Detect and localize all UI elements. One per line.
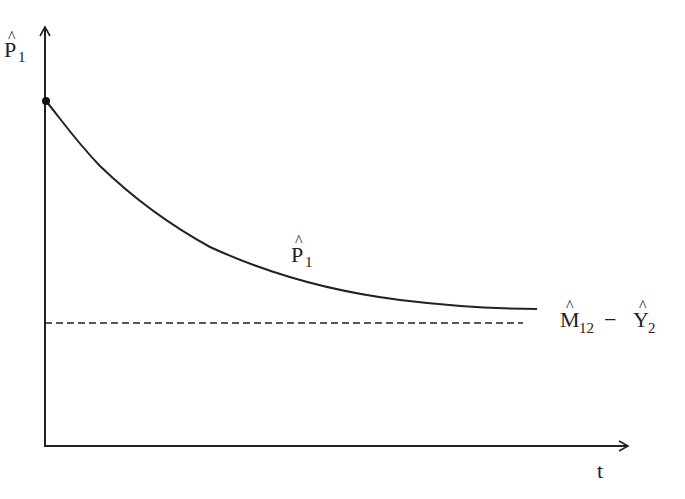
curve-label: ^ P 1 bbox=[291, 232, 313, 270]
asym-m-sub: 12 bbox=[579, 320, 594, 336]
asym-m-main: M bbox=[560, 307, 580, 332]
curve-label-sub: 1 bbox=[305, 254, 313, 270]
asymptote-label: ^ M 12 − ^ Y 2 bbox=[560, 297, 656, 336]
asym-y-sub: 2 bbox=[648, 320, 656, 336]
x-axis-label: t bbox=[597, 458, 603, 483]
chart: ^ P 1 ^ P 1 ^ M 12 − ^ Y 2 t bbox=[0, 0, 685, 499]
decay-curve bbox=[46, 101, 537, 309]
asym-minus: − bbox=[604, 307, 616, 332]
y-axis-label: ^ P 1 bbox=[4, 28, 26, 65]
initial-point-dot bbox=[42, 97, 50, 105]
curve-label-main: P bbox=[291, 242, 303, 267]
y-label-sub: 1 bbox=[18, 49, 26, 65]
asym-y-main: Y bbox=[633, 307, 649, 332]
y-label-main: P bbox=[4, 37, 16, 62]
